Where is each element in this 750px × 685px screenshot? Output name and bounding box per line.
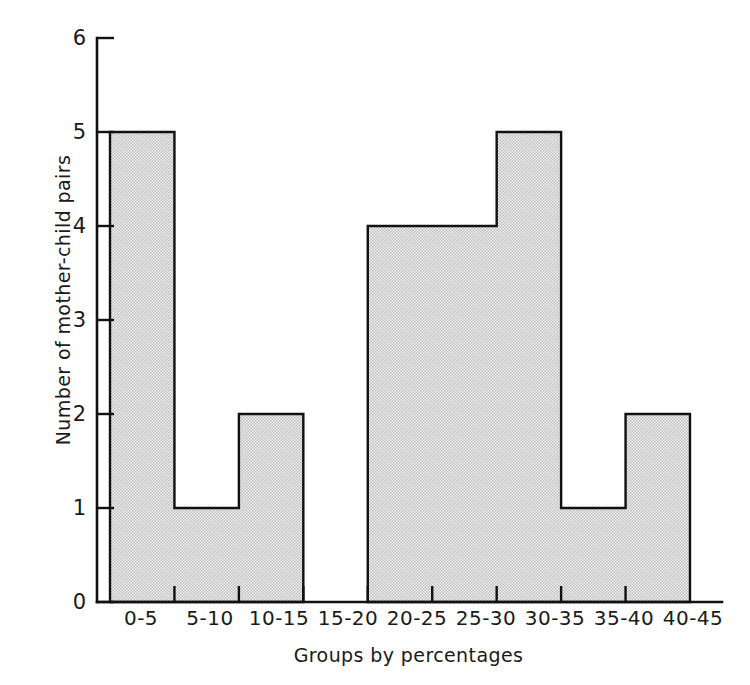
histogram-bar-group (368, 132, 690, 602)
histogram-figure: Number of mother-child pairs 0 1 2 3 4 5… (0, 0, 750, 685)
bars-group (110, 132, 690, 602)
plot-area (0, 0, 750, 685)
histogram-bar-group (110, 132, 303, 602)
